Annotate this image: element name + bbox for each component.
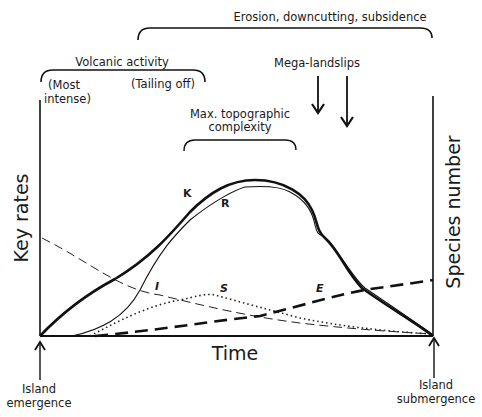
volcanic-start-label-line2: intense)	[44, 92, 91, 106]
submergence-label-line1: Island	[419, 378, 453, 392]
landslip-arrow-1	[312, 76, 324, 113]
max-topo-label-line1: Max. topographic	[190, 107, 290, 121]
submergence-label-line2: submergence	[397, 392, 475, 406]
curve-label-e: E	[316, 282, 324, 295]
erosion-label: Erosion, downcutting, subsidence	[233, 10, 426, 24]
curve-label-k: K	[183, 187, 192, 200]
curve-label-s: S	[220, 282, 228, 295]
emergence-label-line2: emergence	[7, 396, 72, 410]
y-axis-right-label: Species number	[442, 135, 464, 289]
x-axis-label: Time	[211, 342, 259, 364]
max-topo-label-line2: complexity	[208, 120, 271, 134]
volcanic-start-label-line1: (Most	[48, 78, 80, 92]
volcanic-label: Volcanic activity	[75, 55, 169, 69]
emergence-arrow	[35, 342, 45, 380]
richness-curve	[72, 187, 432, 336]
curve-label-i: I	[155, 280, 159, 293]
mega-landslips-label: Mega-landslips	[274, 56, 360, 70]
landslip-arrow-2	[341, 76, 353, 126]
island-biogeography-diagram: Erosion, downcutting, subsidence Volcani…	[0, 0, 482, 417]
y-axis-left-label: Key rates	[10, 174, 32, 263]
extinction-curve	[95, 280, 433, 336]
erosion-bracket	[138, 28, 432, 40]
curve-label-r: R	[221, 197, 230, 210]
volcanic-end-label: (Tailing off)	[131, 77, 195, 91]
emergence-label-line1: Island	[22, 382, 56, 396]
submergence-arrow	[429, 338, 439, 378]
max-topo-bracket	[184, 140, 296, 151]
